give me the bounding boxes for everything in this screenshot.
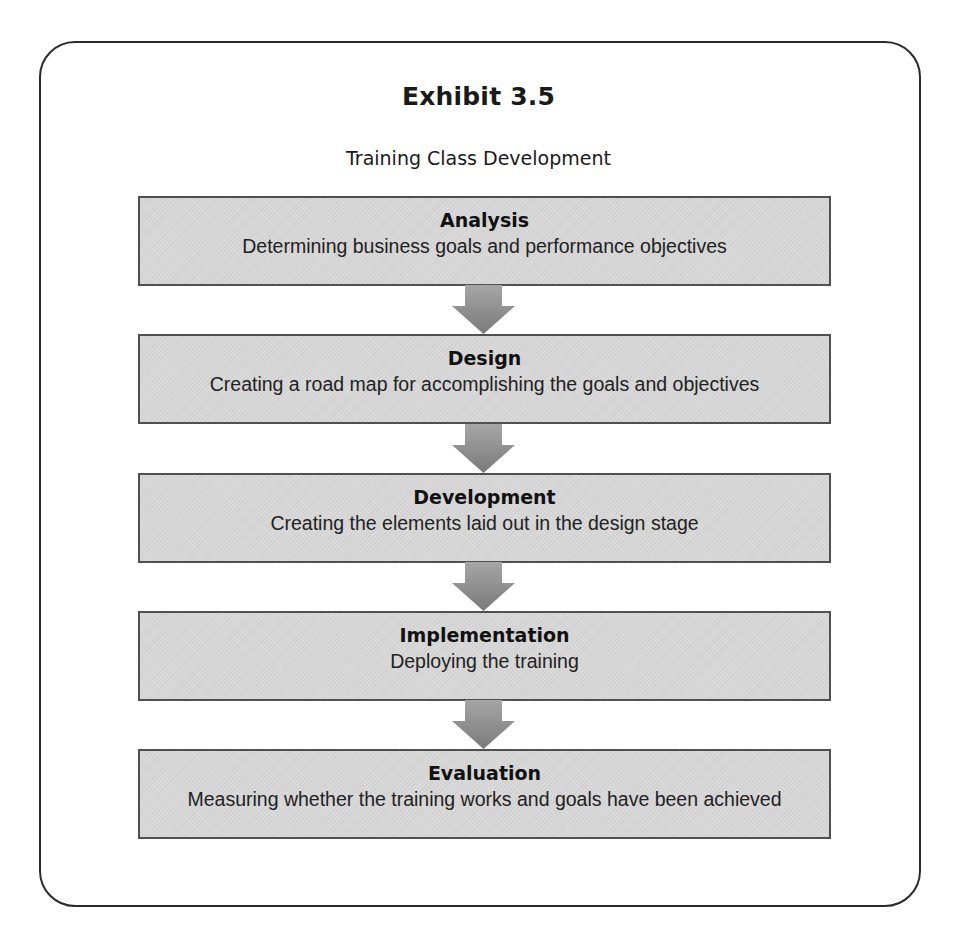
exhibit-title: Exhibit 3.5 bbox=[0, 82, 957, 111]
step-description: Deploying the training bbox=[140, 650, 829, 673]
step-description: Measuring whether the training works and… bbox=[140, 788, 829, 811]
down-arrow-icon bbox=[452, 700, 515, 749]
exhibit-subtitle: Training Class Development bbox=[0, 147, 957, 169]
step-evaluation: Evaluation Measuring whether the trainin… bbox=[138, 749, 831, 839]
step-description: Determining business goals and performan… bbox=[140, 235, 829, 258]
step-title: Development bbox=[140, 486, 829, 508]
step-implementation: Implementation Deploying the training bbox=[138, 611, 831, 701]
step-design: Design Creating a road map for accomplis… bbox=[138, 334, 831, 424]
step-development: Development Creating the elements laid o… bbox=[138, 473, 831, 563]
step-title: Evaluation bbox=[140, 762, 829, 784]
step-description: Creating a road map for accomplishing th… bbox=[140, 373, 829, 396]
down-arrow-icon bbox=[452, 424, 515, 473]
step-title: Design bbox=[140, 347, 829, 369]
down-arrow-icon bbox=[452, 562, 515, 611]
step-analysis: Analysis Determining business goals and … bbox=[138, 196, 831, 286]
down-arrow-icon bbox=[452, 285, 515, 334]
step-title: Analysis bbox=[140, 209, 829, 231]
step-title: Implementation bbox=[140, 624, 829, 646]
step-description: Creating the elements laid out in the de… bbox=[140, 512, 829, 535]
